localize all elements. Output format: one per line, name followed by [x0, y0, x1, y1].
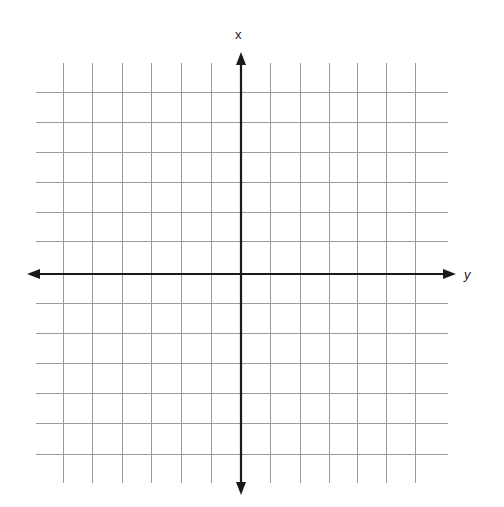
arrowhead-up-icon — [236, 52, 246, 65]
arrowhead-down-icon — [236, 482, 246, 495]
arrowhead-right-icon — [443, 269, 456, 279]
vertical-axis-label: x — [235, 28, 242, 41]
axes-group — [27, 52, 456, 495]
horizontal-axis-label: y — [464, 268, 471, 281]
coordinate-grid-figure: x y — [0, 0, 504, 507]
arrowhead-left-icon — [27, 269, 40, 279]
coordinate-plane-svg — [0, 0, 504, 507]
